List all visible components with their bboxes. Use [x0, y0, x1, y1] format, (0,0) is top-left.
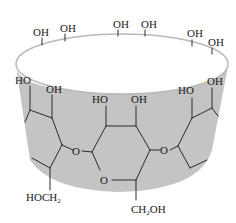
- ch2oh-label: CH2OH: [131, 203, 166, 217]
- hoch2-label: HOCH2: [26, 191, 61, 205]
- rim-oh-3: OH: [113, 18, 129, 30]
- upper-ho-3: HO: [92, 93, 108, 105]
- upper-oh-6: OH: [207, 75, 223, 87]
- rim-oh-4: OH: [141, 18, 157, 30]
- upper-oh-4: OH: [131, 93, 147, 105]
- upper-ho-1: HO: [15, 74, 31, 86]
- cyclodextrin-diagram: OH OH OH OH OH OH HO OH HO OH HO OH: [0, 0, 236, 223]
- upper-ho-5: HO: [178, 84, 194, 96]
- glycosidic-oxygen-right: O: [160, 144, 168, 156]
- rim-oh-1: OH: [33, 26, 49, 38]
- ring-oxygen-center: O: [100, 174, 108, 186]
- glycosidic-oxygen-left: O: [72, 145, 80, 157]
- rim-oh-2: OH: [60, 22, 76, 34]
- rim-oh-6: OH: [208, 36, 224, 48]
- upper-oh-2: OH: [46, 83, 62, 95]
- rim-oh-5: OH: [187, 27, 203, 39]
